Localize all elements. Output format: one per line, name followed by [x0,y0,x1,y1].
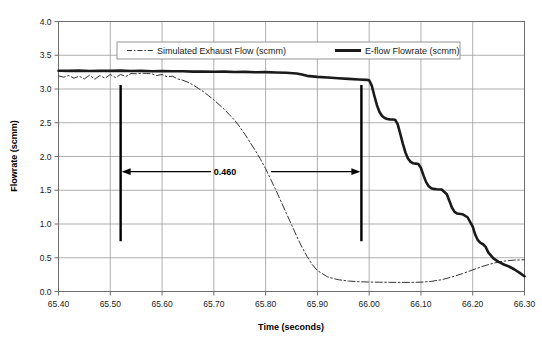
y-tick-label: 2.0 [40,152,52,162]
x-tick-label: 65.70 [203,299,225,309]
x-tick-label: 66.00 [359,299,381,309]
annotation-value-label: 0.460 [214,167,237,177]
x-tick-label: 65.60 [151,299,173,309]
y-tick-label: 2.5 [40,118,52,128]
y-tick-label: 0.5 [40,253,52,263]
y-axis-title: Flowrate (scmm) [9,120,19,192]
x-tick-label: 65.50 [100,299,122,309]
legend-label-simulated-exhaust-flow: Simulated Exhaust Flow (scmm) [157,46,286,56]
y-tick-label: 0.0 [40,287,52,297]
y-tick-label: 3.0 [40,84,52,94]
legend-label-eflow-flowrate: E-flow Flowrate (scmm) [365,46,460,56]
y-tick-label: 4.0 [40,17,52,27]
y-tick-label: 1.0 [40,219,52,229]
y-tick-label: 1.5 [40,185,52,195]
chart-legend: Simulated Exhaust Flow (scmm)E-flow Flow… [117,42,460,59]
x-tick-label: 66.20 [462,299,484,309]
chart-figure: 0.00.51.01.52.02.53.03.54.0 65.4065.5065… [0,0,542,341]
x-tick-label: 65.40 [48,299,70,309]
flowrate-time-line-chart: 0.00.51.01.52.02.53.03.54.0 65.4065.5065… [0,0,542,341]
x-axis-title: Time (seconds) [258,322,324,332]
x-tick-label: 66.10 [410,299,432,309]
y-tick-label: 3.5 [40,50,52,60]
x-tick-label: 66.30 [514,299,536,309]
x-tick-label: 65.90 [307,299,329,309]
x-tick-label: 65.80 [255,299,277,309]
